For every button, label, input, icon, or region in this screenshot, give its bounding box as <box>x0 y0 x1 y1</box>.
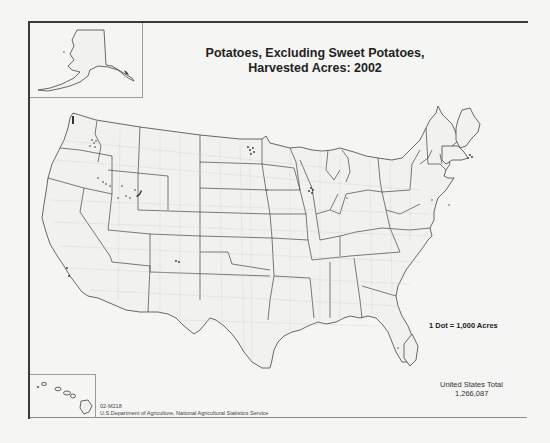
us-total: United States Total 1,266,087 <box>440 380 550 398</box>
dot-legend: 1 Dot = 1,000 Acres <box>429 321 498 330</box>
maine-outline <box>456 108 480 148</box>
title-line-1: Potatoes, Excluding Sweet Potatoes, <box>200 46 430 61</box>
new-england-outline <box>442 146 468 164</box>
us-total-label: United States Total <box>440 380 503 389</box>
alaska-inset-frame <box>30 23 143 98</box>
us-total-value: 1,266,087 <box>440 389 550 398</box>
map-title: Potatoes, Excluding Sweet Potatoes, Harv… <box>200 46 430 76</box>
source-agency: U.S.Department of Agriculture, National … <box>100 410 268 417</box>
title-line-2: Harvested Acres: 2002 <box>200 61 430 76</box>
source-note: 02-M218 U.S.Department of Agriculture, N… <box>100 403 268 416</box>
map-page: Potatoes, Excluding Sweet Potatoes, Harv… <box>0 0 550 443</box>
hawaii-inset-frame <box>30 374 96 418</box>
contiguous-us-map <box>42 106 480 368</box>
